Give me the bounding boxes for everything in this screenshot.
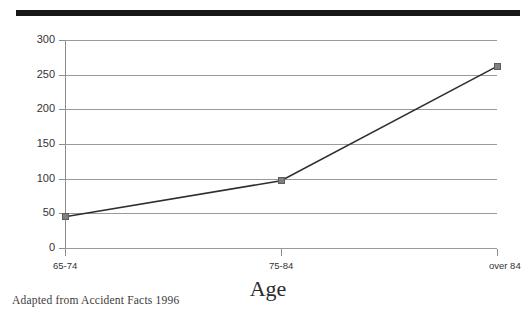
gridline	[65, 40, 497, 41]
x-axis-title-text: Age	[250, 277, 287, 301]
x-tick-mark	[281, 249, 282, 256]
y-tick-label: 100	[11, 173, 55, 184]
line-chart-figure: 300250200150100500 65-7475-84over 84 Age	[0, 0, 528, 320]
y-tick-label-text: 200	[15, 103, 55, 114]
y-tick-label: 250	[11, 69, 55, 80]
x-tick-label: over 84	[489, 260, 521, 271]
plot-area	[65, 40, 497, 248]
x-tick-label: 65-74	[53, 260, 77, 271]
y-tick-mark	[59, 75, 65, 76]
y-tick-label-text: 150	[15, 138, 55, 149]
gridline	[65, 75, 497, 76]
y-tick-label-text: 100	[15, 173, 55, 184]
data-point-marker	[494, 63, 501, 70]
x-tick-mark	[497, 249, 498, 256]
source-caption: Adapted from Accident Facts 1996	[12, 294, 179, 307]
y-tick-label: 50	[11, 207, 55, 218]
x-tick-label: 75-84	[269, 260, 293, 271]
y-tick-mark	[59, 109, 65, 110]
y-tick-mark	[59, 144, 65, 145]
x-tick-mark	[65, 249, 66, 256]
y-tick-label-text: 0	[15, 242, 55, 253]
y-tick-label: 300	[11, 34, 55, 45]
gridline	[65, 109, 497, 110]
y-tick-mark	[59, 179, 65, 180]
gridline	[65, 144, 497, 145]
y-tick-label: 0	[11, 242, 55, 253]
y-tick-mark	[59, 40, 65, 41]
data-point-marker	[278, 177, 285, 184]
y-tick-label: 200	[11, 103, 55, 114]
y-tick-label-text: 300	[15, 34, 55, 45]
gridline	[65, 213, 497, 214]
y-tick-label: 150	[11, 138, 55, 149]
y-tick-label-text: 50	[15, 207, 55, 218]
data-point-marker	[62, 213, 69, 220]
y-tick-label-text: 250	[15, 69, 55, 80]
